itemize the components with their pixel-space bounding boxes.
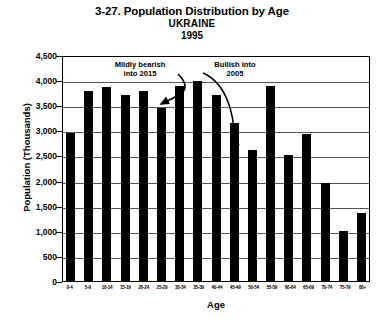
y-tick-label: 4,000 [36, 76, 57, 86]
bar-75-79 [339, 231, 348, 281]
plot-area [62, 56, 370, 282]
bar-35-39 [193, 81, 202, 281]
x-tick-label: 65-69 [303, 283, 312, 295]
page-title: 3-27. Population Distribution by Age [0, 4, 384, 18]
x-tick-label: 55-59 [266, 283, 275, 295]
bar-65-69 [302, 134, 311, 281]
y-tick-label: 2,500 [36, 151, 57, 161]
bar-80+ [357, 213, 366, 281]
chart-subtitle-year: 1995 [0, 30, 384, 42]
bar-10-14 [102, 87, 111, 281]
x-axis-label: Age [62, 299, 370, 310]
chart-subtitle-country: UKRAINE [0, 18, 384, 30]
bar-series [63, 57, 369, 281]
chart-title-block: 3-27. Population Distribution by Age UKR… [0, 4, 384, 42]
x-tick-label: 40-44 [212, 283, 221, 295]
x-tick-label: 80+ [358, 283, 367, 295]
annotation-mildly-bearish: Mildly bearish into 2015 [104, 60, 176, 78]
y-tick-label: 3,500 [36, 101, 57, 111]
x-tick-label: 70-74 [321, 283, 330, 295]
bar-50-54 [248, 150, 257, 281]
annotation-bullish: Bullish into 2005 [204, 60, 266, 78]
bar-15-19 [121, 95, 130, 281]
x-tick-label: 0-4 [65, 283, 74, 295]
x-tick-label: 25-29 [157, 283, 166, 295]
bar-55-59 [266, 86, 275, 281]
chart-page: 3-27. Population Distribution by Age UKR… [0, 0, 384, 324]
bar-60-64 [284, 155, 293, 281]
y-tick-label: 1,000 [36, 227, 57, 237]
x-tick-label: 50-54 [248, 283, 257, 295]
x-tick-label: 35-39 [193, 283, 202, 295]
y-tick-label: 500 [43, 252, 57, 262]
x-tick-label: 75-79 [340, 283, 349, 295]
y-tick-label: 1,500 [36, 202, 57, 212]
bar-5-9 [84, 91, 93, 281]
x-tick-label: 60-64 [285, 283, 294, 295]
x-tick-label: 45-49 [230, 283, 239, 295]
y-tick-label: 4,500 [36, 51, 57, 61]
x-tick-label: 30-34 [175, 283, 184, 295]
x-axis-ticks: 0-45-910-1415-1920-2425-2930-3435-3940-4… [62, 283, 370, 295]
x-tick-label: 20-24 [138, 283, 147, 295]
y-tick-label: 3,000 [36, 126, 57, 136]
bar-25-29 [157, 108, 166, 281]
bar-0-4 [66, 133, 75, 281]
bar-30-34 [175, 86, 184, 281]
bar-40-44 [212, 95, 221, 281]
x-tick-label: 5-9 [83, 283, 92, 295]
bar-70-74 [321, 183, 330, 281]
y-axis: Population (Thousands) 4,5004,0003,5003,… [0, 56, 62, 282]
bar-20-24 [139, 91, 148, 281]
y-axis-label: Population (Thousands) [21, 68, 32, 248]
x-tick-label: 10-14 [102, 283, 111, 295]
bar-45-49 [230, 123, 239, 281]
y-tick-label: 2,000 [36, 177, 57, 187]
x-tick-label: 15-19 [120, 283, 129, 295]
